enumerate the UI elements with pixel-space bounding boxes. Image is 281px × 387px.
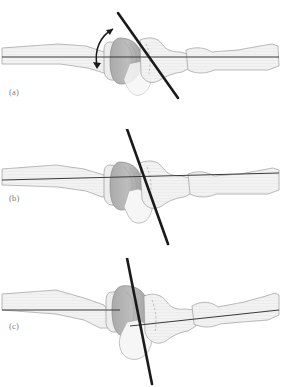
panel-label-b: (b) bbox=[9, 194, 20, 203]
distal-phalanx bbox=[192, 293, 279, 327]
middle-phalanx bbox=[140, 38, 190, 83]
panel-label-c: (c) bbox=[9, 322, 19, 331]
panel-label-a: (a) bbox=[9, 88, 19, 97]
panel-b-illustration bbox=[0, 129, 281, 258]
panel-c-illustration bbox=[0, 258, 281, 387]
middle-phalanx bbox=[144, 294, 196, 343]
distal-phalanx bbox=[186, 44, 279, 73]
figure-root: (a) (b) (c) bbox=[0, 0, 281, 387]
panel-b bbox=[0, 129, 281, 258]
panel-a bbox=[0, 0, 281, 129]
panel-c bbox=[0, 258, 281, 387]
panel-a-illustration bbox=[0, 0, 281, 129]
distal-phalanx bbox=[188, 168, 279, 197]
